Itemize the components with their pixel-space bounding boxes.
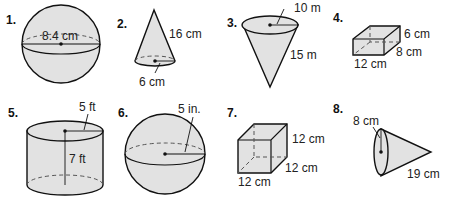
figure-number: 2. [117, 17, 127, 31]
figure-3-inverted-cone: 3. 10 m 15 m [227, 1, 321, 87]
radius-label: 6 cm [139, 75, 165, 89]
height-label: 12 cm [292, 132, 325, 146]
slant-height-label: 15 m [290, 48, 317, 62]
radius-label: 8 cm [353, 114, 379, 128]
figure-number: 6. [118, 106, 128, 120]
figure-8-sideways-cone: 8. 8 cm 19 cm [333, 102, 440, 181]
geometry-figures: 1. 8.4 cm 2. 16 cm 6 cm 3. 10 m 15 m 4. … [0, 0, 449, 200]
slant-height-label: 16 cm [169, 27, 202, 41]
radius-label: 5 ft [79, 100, 96, 114]
length-label: 12 cm [354, 57, 387, 71]
figure-6-sphere: 6. 5 in. [118, 102, 205, 194]
prism-body [353, 26, 400, 55]
slant-height-label: 19 cm [407, 167, 440, 181]
center-point [268, 23, 272, 27]
height-label: 7 ft [69, 152, 86, 166]
figure-2-cone: 2. 16 cm 6 cm [117, 10, 202, 89]
width-label: 8 cm [396, 45, 422, 59]
diameter-label: 8.4 cm [42, 29, 78, 43]
width-label: 12 cm [285, 161, 318, 175]
center-point [163, 152, 167, 156]
figure-number: 7. [227, 106, 237, 120]
radius-label: 10 m [294, 1, 321, 15]
figure-1-sphere: 1. 8.4 cm [6, 5, 100, 83]
figure-4-rectangular-prism: 4. 6 cm 8 cm 12 cm [333, 11, 430, 71]
figure-5-cylinder: 5. 5 ft 7 ft [8, 100, 103, 195]
figure-number: 5. [8, 106, 18, 120]
length-label: 12 cm [238, 175, 271, 189]
top-center-point [63, 129, 67, 133]
base-center-point [379, 150, 383, 154]
radius-label: 5 in. [178, 102, 201, 116]
figure-number: 3. [227, 16, 237, 30]
figure-number: 1. [6, 13, 16, 27]
height-label: 6 cm [404, 27, 430, 41]
figure-7-cube: 7. 12 cm 12 cm 12 cm [227, 106, 325, 189]
base-center-point [153, 59, 157, 63]
figure-number: 8. [333, 102, 343, 116]
figure-number: 4. [333, 11, 343, 25]
